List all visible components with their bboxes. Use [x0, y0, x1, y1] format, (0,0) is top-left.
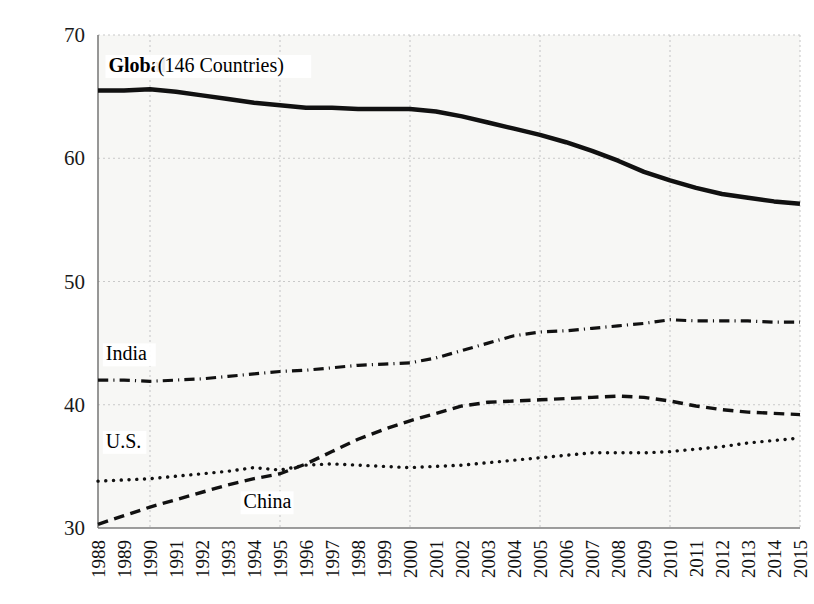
series-annotation-india: India [106, 342, 147, 364]
x-axis-tick-label: 2005 [530, 540, 551, 578]
x-axis-tick-label: 2008 [608, 540, 629, 578]
series-annotation-china: China [244, 490, 292, 512]
x-axis-tick-label: 2011 [686, 540, 707, 577]
x-axis-tick-label: 2000 [400, 540, 421, 578]
x-axis-tick-label: 1993 [218, 540, 239, 578]
x-axis-tick-label: 2004 [504, 540, 525, 579]
x-axis-tick-label: 2013 [738, 540, 759, 578]
x-axis-tick-label: 1997 [322, 540, 343, 578]
x-axis-tick-label: 2014 [764, 540, 785, 579]
y-axis-tick-label: 70 [64, 23, 85, 47]
x-axis-tick-label: 2009 [634, 540, 655, 578]
x-axis-tick-label: 2001 [426, 540, 447, 578]
x-axis-tick-label: 2010 [660, 540, 681, 578]
x-axis-tick-label: 2006 [556, 540, 577, 578]
figure-container: 3040506070198819891990199119921993199419… [0, 0, 814, 604]
y-axis-tick-label: 40 [64, 393, 85, 417]
x-axis-tick-label: 1995 [270, 540, 291, 578]
x-axis-tick-label: 1994 [244, 540, 265, 579]
x-axis-tick-label: 1991 [166, 540, 187, 578]
series-annotation-u-s: U.S. [106, 430, 142, 452]
x-axis-tick-label: 1988 [88, 540, 109, 578]
x-axis-tick-label: 2002 [452, 540, 473, 578]
x-axis-tick-label: 1998 [348, 540, 369, 578]
x-axis-tick-label: 2012 [712, 540, 733, 578]
x-axis-tick-label: 2007 [582, 540, 603, 578]
line-chart: 3040506070198819891990199119921993199419… [0, 0, 814, 604]
x-axis-tick-label: 1992 [192, 540, 213, 578]
x-axis-tick-label: 1999 [374, 540, 395, 578]
x-axis-tick-label: 1996 [296, 540, 317, 578]
x-axis-tick-label: 1989 [114, 540, 135, 578]
series-annotation-146-countries: (146 Countries) [158, 54, 284, 77]
y-axis-tick-label: 30 [64, 516, 85, 540]
y-axis-tick-label: 60 [64, 146, 85, 170]
x-axis-tick-label: 2015 [790, 540, 811, 578]
x-axis-tick-label: 1990 [140, 540, 161, 578]
x-axis-tick-label: 2003 [478, 540, 499, 578]
y-axis-tick-label: 50 [64, 270, 85, 294]
